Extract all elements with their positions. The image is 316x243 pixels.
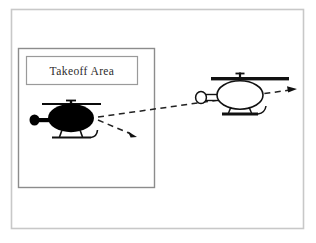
takeoff-area-label: Takeoff Area — [50, 65, 115, 77]
white-helicopter-main-rotor — [211, 77, 289, 80]
black-helicopter-fuselage — [48, 104, 94, 132]
white-helicopter-fuselage — [217, 81, 263, 109]
diagram-canvas: Takeoff Area — [0, 0, 316, 243]
black-helicopter-tail-rotor — [30, 114, 40, 125]
white-helicopter-tail-rotor — [196, 92, 207, 104]
diagram-root: Takeoff Area — [0, 0, 316, 243]
white-helicopter-skid-rail — [222, 113, 258, 116]
